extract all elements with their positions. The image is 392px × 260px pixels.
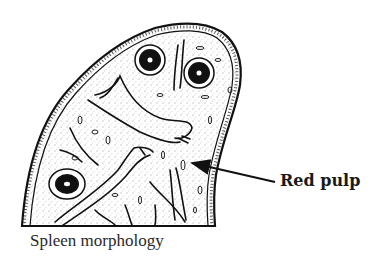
- figure-caption: Spleen morphology: [30, 231, 164, 251]
- follicle-right: [184, 58, 214, 88]
- spleen-illustration: [0, 0, 392, 260]
- follicle-top: [135, 45, 165, 75]
- spleen-diagram: Red pulp Spleen morphology: [0, 0, 392, 260]
- red-pulp-label: Red pulp: [280, 171, 360, 190]
- follicle-bottom-left: [49, 169, 85, 199]
